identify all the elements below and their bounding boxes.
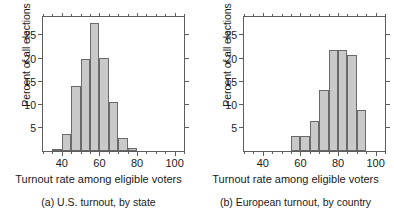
y-tick-label: 15 bbox=[24, 76, 36, 88]
x-tick-top bbox=[263, 13, 264, 17]
x-tick-minor bbox=[43, 151, 44, 154]
y-tick-label: 5 bbox=[30, 122, 36, 134]
histogram-bar bbox=[291, 136, 300, 151]
histogram-bar bbox=[90, 23, 99, 151]
x-tick-minor bbox=[310, 151, 311, 154]
x-tick-minor-top bbox=[71, 14, 72, 17]
panel-us-turnout: Percent of all elections 510152025406080… bbox=[0, 0, 197, 220]
y-tick bbox=[38, 127, 43, 128]
x-tick-minor-top bbox=[244, 14, 245, 17]
x-tick-minor bbox=[357, 151, 358, 154]
x-tick-label: 100 bbox=[366, 157, 384, 169]
x-tick-label: 80 bbox=[131, 157, 143, 169]
histogram-bar bbox=[81, 59, 90, 151]
panel-caption-a: (a) U.S. turnout, by state bbox=[0, 196, 197, 208]
y-tick-label: 5 bbox=[231, 122, 237, 134]
x-tick-minor bbox=[291, 151, 292, 154]
x-tick-minor-top bbox=[184, 14, 185, 17]
y-tick bbox=[38, 34, 43, 35]
y-tick-right bbox=[184, 81, 189, 82]
y-tick bbox=[239, 104, 244, 105]
x-tick-minor bbox=[385, 151, 386, 154]
x-tick bbox=[376, 151, 377, 156]
x-tick-minor-top bbox=[156, 14, 157, 17]
x-tick-minor-top bbox=[282, 14, 283, 17]
y-tick-label: 25 bbox=[225, 29, 237, 41]
x-tick-label: 40 bbox=[257, 157, 269, 169]
histogram-bar bbox=[338, 50, 347, 151]
y-tick-label: 25 bbox=[24, 29, 36, 41]
x-tick bbox=[99, 151, 100, 156]
x-tick-minor-top bbox=[291, 14, 292, 17]
x-tick bbox=[175, 151, 176, 156]
y-tick-right bbox=[184, 34, 189, 35]
x-tick-minor-top bbox=[165, 14, 166, 17]
y-tick bbox=[239, 58, 244, 59]
histogram-bar bbox=[62, 134, 71, 151]
y-tick bbox=[239, 81, 244, 82]
x-axis-title: Turnout rate among eligible voters bbox=[197, 173, 394, 185]
y-tick-right bbox=[385, 81, 390, 82]
y-tick-right bbox=[184, 104, 189, 105]
x-axis-title: Turnout rate among eligible voters bbox=[0, 173, 197, 185]
y-tick-label: 10 bbox=[24, 99, 36, 111]
y-tick-right bbox=[184, 58, 189, 59]
x-tick-top bbox=[376, 13, 377, 17]
panel-caption-b: (b) European turnout, by country bbox=[197, 196, 394, 208]
x-tick-minor bbox=[366, 151, 367, 154]
histogram-bar bbox=[99, 58, 108, 151]
x-tick-minor bbox=[253, 151, 254, 154]
x-tick-minor bbox=[347, 151, 348, 154]
x-tick-minor-top bbox=[366, 14, 367, 17]
histogram-bar bbox=[118, 138, 127, 151]
x-tick-top bbox=[62, 13, 63, 17]
y-tick-label: 20 bbox=[24, 53, 36, 65]
y-tick bbox=[239, 34, 244, 35]
histogram-bar bbox=[310, 121, 319, 151]
figure-two-histograms: Percent of all elections 510152025406080… bbox=[0, 0, 394, 220]
x-tick-minor bbox=[71, 151, 72, 154]
x-tick-minor bbox=[109, 151, 110, 154]
x-tick-minor-top bbox=[90, 14, 91, 17]
y-tick bbox=[38, 104, 43, 105]
y-tick-label: 20 bbox=[225, 53, 237, 65]
plot-area-a: 510152025406080100 bbox=[42, 16, 185, 152]
x-tick-label: 60 bbox=[294, 157, 306, 169]
x-tick-minor bbox=[329, 151, 330, 154]
y-tick-right bbox=[385, 58, 390, 59]
x-tick-top bbox=[137, 13, 138, 17]
y-tick-right bbox=[184, 127, 189, 128]
x-tick-minor-top bbox=[310, 14, 311, 17]
x-tick-minor-top bbox=[43, 14, 44, 17]
y-tick bbox=[38, 81, 43, 82]
x-tick-top bbox=[338, 13, 339, 17]
x-tick-minor bbox=[52, 151, 53, 154]
x-tick bbox=[263, 151, 264, 156]
x-tick-minor bbox=[244, 151, 245, 154]
x-tick-minor-top bbox=[109, 14, 110, 17]
y-tick-right bbox=[385, 104, 390, 105]
x-tick-label: 80 bbox=[332, 157, 344, 169]
x-tick-minor-top bbox=[329, 14, 330, 17]
histogram-bar bbox=[319, 90, 328, 151]
histogram-bar bbox=[109, 102, 118, 151]
x-tick bbox=[62, 151, 63, 156]
histogram-bar bbox=[71, 86, 80, 151]
x-tick-minor-top bbox=[385, 14, 386, 17]
x-tick bbox=[338, 151, 339, 156]
x-tick-minor-top bbox=[272, 14, 273, 17]
y-tick bbox=[38, 58, 43, 59]
x-tick-minor bbox=[128, 151, 129, 154]
x-tick-minor bbox=[282, 151, 283, 154]
x-tick-minor-top bbox=[347, 14, 348, 17]
histogram-bar bbox=[347, 55, 356, 151]
x-tick-minor bbox=[272, 151, 273, 154]
x-tick-minor bbox=[319, 151, 320, 154]
x-tick-top bbox=[175, 13, 176, 17]
y-tick-label: 15 bbox=[225, 76, 237, 88]
y-tick bbox=[239, 127, 244, 128]
x-tick-minor-top bbox=[253, 14, 254, 17]
x-tick-minor bbox=[146, 151, 147, 154]
y-tick-label: 10 bbox=[225, 99, 237, 111]
x-tick-minor-top bbox=[319, 14, 320, 17]
